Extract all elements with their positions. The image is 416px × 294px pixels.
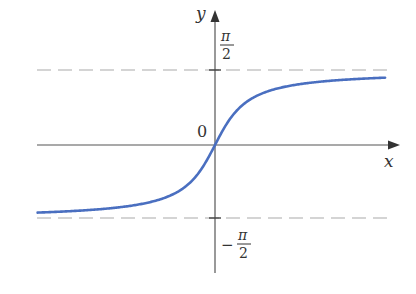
x-axis-arrow-icon [388,141,400,150]
x-axis-label: x [384,151,394,171]
svg-text:π: π [220,28,231,44]
arctan-plot: y x 0 π 2 − π 2 [0,0,416,294]
y-axis-arrow-icon [211,10,220,22]
svg-text:2: 2 [239,245,248,261]
pi-over-2-label: π 2 [220,28,234,62]
svg-text:−: − [221,236,234,254]
neg-pi-over-2-label: − π 2 [221,227,251,261]
svg-text:2: 2 [222,46,231,62]
svg-text:π: π [237,227,248,243]
origin-label: 0 [197,122,207,141]
y-axis-label: y [195,3,206,23]
